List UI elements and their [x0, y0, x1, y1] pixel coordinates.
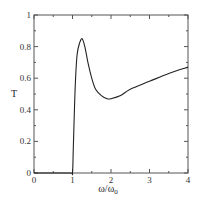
- transmission-curve: [34, 39, 188, 175]
- y-tick-label: 0.2: [20, 136, 31, 146]
- x-tick-label: 4: [186, 175, 191, 185]
- x-axis-ticks: 01234: [32, 15, 191, 185]
- y-axis-label: T: [11, 88, 17, 99]
- y-axis-ticks: 00.20.40.60.81: [20, 10, 188, 178]
- y-tick-label: 0.4: [20, 105, 32, 115]
- x-axis-label: ω/ω0: [98, 183, 118, 196]
- x-tick-label: 3: [147, 175, 152, 185]
- x-axis-label-subscript: 0: [114, 188, 118, 196]
- y-tick-label: 0.6: [20, 73, 32, 83]
- y-tick-label: 0.8: [20, 42, 32, 52]
- transmission-chart: 01234 00.20.40.60.81 T ω/ω0: [0, 0, 199, 201]
- x-tick-label: 0: [32, 175, 37, 185]
- y-tick-label: 0: [27, 168, 32, 178]
- y-tick-label: 1: [27, 10, 32, 20]
- x-tick-label: 1: [70, 175, 75, 185]
- plot-frame: [34, 15, 188, 173]
